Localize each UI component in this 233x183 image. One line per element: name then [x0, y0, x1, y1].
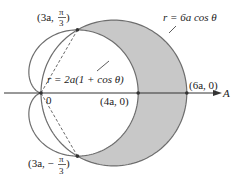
- lower-intersection-label: (3a, − π 3 ): [28, 154, 70, 176]
- pole-point: [39, 91, 43, 95]
- upper-label-numerator: π: [59, 7, 64, 17]
- lower-label-suffix: ): [66, 157, 70, 170]
- upper-label-prefix: (3a,: [37, 11, 54, 24]
- circle-equation-label: r = 6a cos θ: [163, 11, 217, 23]
- upper-intersection-label: (3a, π 3 ): [37, 7, 70, 28]
- circle-vertex-point: [185, 91, 189, 95]
- circle-label-pointer: [169, 26, 176, 33]
- lower-label-denominator: 3: [59, 166, 64, 176]
- upper-label-suffix: ): [66, 11, 70, 24]
- cardioid-equation-label: r = 2a(1 + cos θ): [47, 73, 124, 86]
- lower-label-prefix: (3a, −: [28, 157, 54, 170]
- cardioid-vertex-label: (4a, 0): [100, 95, 129, 108]
- polar-axis-label: A: [222, 87, 230, 99]
- cardioid-label-pointer: [97, 61, 109, 71]
- lower-label-numerator: π: [59, 154, 64, 164]
- circle-vertex-label: (6a, 0): [189, 79, 218, 92]
- polar-diagram: A 0 (4a, 0) (6a, 0) (3a, π 3 ) (3a, − π …: [0, 0, 233, 183]
- cardioid-vertex-point: [136, 91, 140, 95]
- lower-intersection-point: [76, 154, 80, 158]
- pole-label: 0: [46, 94, 52, 106]
- upper-intersection-point: [76, 28, 80, 32]
- upper-label-denominator: 3: [59, 18, 64, 28]
